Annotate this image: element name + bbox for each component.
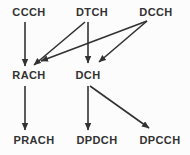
node-prach: PRACH <box>13 135 54 146</box>
node-dtch: DTCH <box>76 7 108 18</box>
arrow-dcch-to-rach <box>41 21 147 61</box>
arrow-dch-to-dpcch <box>90 86 149 128</box>
arrow-dcch-to-dch <box>99 21 147 62</box>
node-dpcch: DPCCH <box>139 135 180 146</box>
arrow-dtch-to-rach <box>34 22 85 65</box>
node-ccch: CCCH <box>12 7 45 18</box>
node-rach: RACH <box>12 70 45 81</box>
node-dpdch: DPDCH <box>76 135 117 146</box>
channel-mapping-diagram: CCCH DTCH DCCH RACH DCH PRACH DPDCH DPCC… <box>0 0 190 155</box>
node-dch: DCH <box>75 70 100 81</box>
node-dcch: DCCH <box>139 7 172 18</box>
